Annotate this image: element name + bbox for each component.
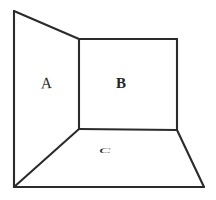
label-panel-b: B — [116, 76, 126, 91]
corner-room-diagram — [0, 0, 216, 200]
label-panel-a: A — [41, 75, 52, 91]
floor-back-edge — [79, 129, 177, 130]
label-panel-c: C — [98, 147, 111, 154]
figure-root: A B C — [0, 0, 216, 200]
back-wall-face — [79, 39, 177, 130]
